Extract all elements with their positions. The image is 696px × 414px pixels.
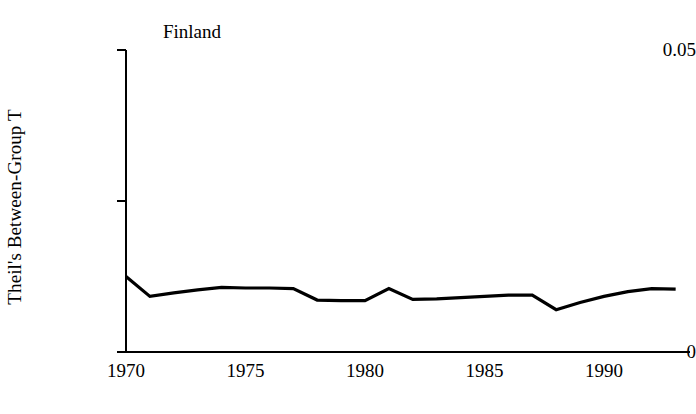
- plot-canvas: [0, 0, 696, 414]
- data-series-line: [126, 277, 676, 310]
- chart-figure: Theil's Between-Group T 0.05 0 Finland 1…: [0, 0, 696, 414]
- y-axis-ticks: [117, 50, 126, 352]
